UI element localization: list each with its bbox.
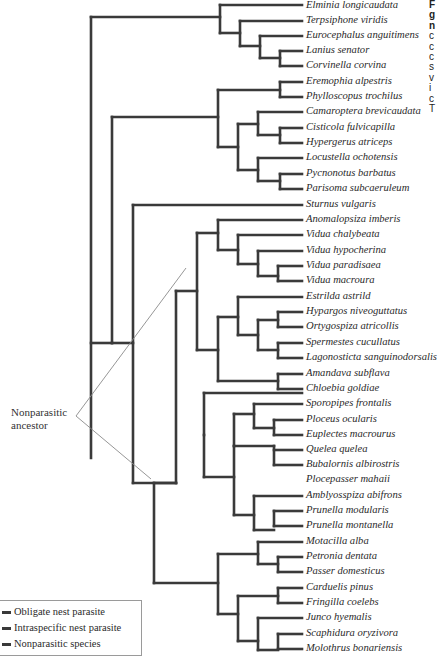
cutoff-letter: T [429,104,441,114]
leaf-label: Camaroptera brevicaudata [306,105,421,117]
leaf-label: Amblyosspiza abifrons [306,489,402,501]
leaf-label: Passer domesticus [306,565,385,577]
legend-label: Obligate nest parasite [14,606,105,617]
leaf-label: Ortygospiza atricollis [306,320,399,332]
intraspecific-line-swatch-icon [2,627,11,630]
callout-lines [76,268,186,479]
leaf-label: Plocepasser mahaii [306,473,390,485]
leaf-label: Scaphidura oryzivora [306,627,398,639]
cutoff-adjacent-text: F g n c c c s v i c T [429,0,441,114]
callout-line-2: ancestor [11,419,67,432]
leaf-label: Vidua paradisaea [306,259,381,271]
leaf-label: Hypargos niveoguttatus [306,305,407,317]
leaf-label: Phylloscopus trochilus [306,90,402,102]
leaf-label: Amandava subflava [306,367,390,379]
leaf-label: Bubalornis albirostris [306,458,400,470]
leaf-label: Vidua chalybeata [306,228,380,240]
legend-item-obligate: Obligate nest parasite [2,606,105,618]
leaf-label: Cisticola fulvicapilla [306,121,395,133]
tree-branches [91,5,302,650]
legend-label: Intraspecific nest parasite [14,622,121,633]
leaf-label: Sturnus vulgaris [306,198,376,210]
legend-item-intraspecific: Intraspecific nest parasite [2,622,121,634]
leaf-label: Elminia longicaudata [306,0,398,11]
leaf-label: Eurocephalus anguitimens [306,29,419,41]
nonparasitic-ancestor-callout: Nonparasitic ancestor [11,406,67,432]
leaf-label: Corvinella corvina [306,59,386,71]
leaf-label: Parisoma subcaeruleum [306,182,409,194]
leaf-label: Pycnonotus barbatus [306,167,396,179]
leaf-label: Prunella modularis [306,504,389,516]
leaf-label: Molothrus bonariensis [306,642,402,654]
leaf-label: Carduelis pinus [306,581,373,593]
leaf-label: Anomalopsiza imberis [306,213,400,225]
leaf-label: Terpsiphone viridis [306,14,388,26]
leaf-label: Fringilla coelebs [306,596,379,608]
leaf-label: Vidua macroura [306,274,375,286]
leaf-label: Quelea quelea [306,443,367,455]
callout-line-1: Nonparasitic [11,406,67,419]
nonparasitic-line-swatch-icon [2,643,11,646]
leaf-label: Ploceus ocularis [306,413,377,425]
obligate-line-swatch-icon [2,611,11,614]
legend-item-nonparasitic: Nonparasitic species [2,638,101,650]
leaf-label: Chloebia goldiae [306,382,379,394]
leaf-label: Euplectes macrourus [306,428,395,440]
leaf-label: Junco hyemalis [306,611,372,623]
leaf-label: Motacilla alba [306,535,369,547]
leaf-label: Vidua hypocherina [306,244,386,256]
leaf-label: Estrilda astrild [306,290,370,302]
leaf-label: Hypergerus atriceps [306,136,392,148]
leaf-label: Lagonosticta sanguinodorsalis [306,351,437,363]
leaf-label: Locustella ochotensis [306,151,398,163]
legend-label: Nonparasitic species [14,638,101,649]
leaf-label: Sporopipes frontalis [306,397,391,409]
leaf-label: Spermestes cucullatus [306,336,400,348]
leaf-label: Eremophia alpestris [306,75,392,87]
leaf-label: Lanius senator [306,44,369,56]
leaf-label: Prunella montanella [306,519,393,531]
leaf-label: Petronia dentata [306,550,377,562]
legend: Obligate nest parasite Intraspecific nes… [0,600,142,656]
